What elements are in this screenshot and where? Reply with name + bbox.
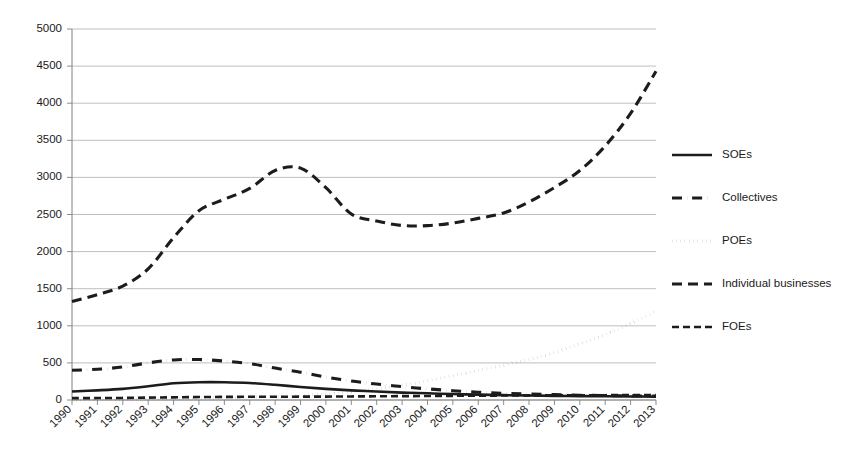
- y-tick-labels: 5000450040003500300025002000150010005000: [36, 22, 62, 405]
- y-axis-tick-label: 3000: [36, 170, 62, 182]
- x-axis-tick-label: 2006: [453, 403, 480, 430]
- x-axis-tick-label: 2011: [581, 403, 607, 429]
- legend: SOEsCollectivesPOEsIndividual businesses…: [672, 148, 832, 332]
- y-axis-tick-label: 1500: [36, 282, 62, 294]
- y-axis-tick-label: 3500: [36, 133, 62, 145]
- series-line-foes: [72, 395, 656, 398]
- legend-label-individual-businesses: Individual businesses: [722, 277, 832, 289]
- x-axis-tick-label: 2003: [377, 403, 404, 430]
- series-line-individual-businesses: [72, 71, 656, 301]
- x-axis: [72, 400, 656, 405]
- legend-label-poes: POEs: [722, 234, 752, 246]
- x-axis-tick-label: 1996: [199, 403, 226, 430]
- series-group: [72, 71, 656, 400]
- x-axis-tick-label: 1992: [98, 403, 125, 430]
- x-tick-labels: 1990199119921993199419951996199719981999…: [47, 403, 658, 430]
- y-axis-tick-label: 2500: [36, 208, 62, 220]
- y-axis: [67, 29, 72, 400]
- legend-label-collectives: Collectives: [722, 191, 778, 203]
- y-axis-tick-label: 4000: [36, 96, 62, 108]
- x-axis-tick-label: 2010: [555, 403, 582, 430]
- y-axis-tick-label: 0: [56, 393, 62, 405]
- x-axis-tick-label: 2013: [631, 403, 658, 430]
- legend-label-soes: SOEs: [722, 148, 752, 160]
- x-axis-tick-label: 2001: [326, 403, 353, 430]
- chart-container: 5000450040003500300025002000150010005000…: [0, 0, 858, 459]
- gridlines-group: [72, 29, 656, 400]
- y-axis-tick-label: 4500: [36, 59, 62, 71]
- x-axis-tick-label: 1994: [148, 403, 175, 430]
- x-axis-tick-label: 1990: [47, 403, 74, 430]
- x-axis-tick-label: 2005: [428, 403, 455, 430]
- x-axis-tick-label: 2009: [529, 403, 556, 430]
- x-axis-tick-label: 2008: [504, 403, 531, 430]
- x-axis-tick-label: 2007: [478, 403, 505, 430]
- x-axis-tick-label: 2004: [402, 403, 429, 430]
- x-axis-tick-label: 1998: [250, 403, 277, 430]
- series-line-poes: [72, 311, 656, 400]
- line-chart: 5000450040003500300025002000150010005000…: [0, 0, 858, 459]
- y-axis-tick-label: 5000: [36, 22, 62, 34]
- y-axis-tick-label: 1000: [36, 319, 62, 331]
- x-axis-tick-label: 1993: [123, 403, 150, 430]
- x-axis-tick-label: 2012: [605, 403, 632, 430]
- x-axis-tick-label: 2000: [301, 403, 328, 430]
- x-axis-tick-label: 1991: [72, 403, 99, 430]
- x-axis-tick-label: 1995: [174, 403, 201, 430]
- x-axis-tick-label: 2002: [352, 403, 379, 430]
- y-axis-tick-label: 2000: [36, 245, 62, 257]
- x-axis-tick-label: 1999: [275, 403, 302, 430]
- x-axis-tick-label: 1997: [225, 403, 252, 430]
- y-axis-tick-label: 500: [43, 356, 62, 368]
- legend-label-foes: FOEs: [722, 320, 752, 332]
